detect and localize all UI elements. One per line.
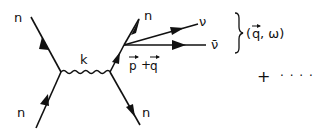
brace	[235, 13, 243, 53]
label-outgoing-right: n	[144, 8, 152, 23]
arrow-icon	[39, 37, 49, 50]
pair-momentum-label: ( q , ω)	[246, 24, 284, 41]
label-propagator: k	[80, 52, 88, 67]
arrow-icon	[126, 104, 135, 117]
arrow-icon	[170, 27, 184, 35]
propagator-wavy-line	[61, 71, 111, 74]
label-incoming-left: n	[17, 105, 25, 120]
svg-text:(: (	[246, 26, 251, 41]
feynman-diagram: n n n n k p + q ν ν̄ ( q , ω) + · · · ·	[0, 0, 323, 133]
label-antineutrino: ν̄	[211, 37, 218, 52]
label-incoming-right: n	[142, 105, 150, 120]
continuation-dots: · · · ·	[280, 69, 314, 83]
continuation-plus: +	[257, 67, 270, 86]
svg-text:p: p	[129, 59, 137, 73]
arrow-icon	[40, 94, 49, 106]
label-neutrino: ν	[199, 14, 206, 29]
right-incoming-neutron-line	[110, 72, 140, 125]
left-outgoing-neutron-line	[31, 17, 61, 72]
label-outgoing-left: n	[14, 10, 22, 25]
arrow-icon	[112, 52, 120, 64]
intermediate-line	[110, 45, 124, 72]
arrow-icon	[172, 40, 186, 50]
svg-text:q: q	[150, 59, 158, 73]
left-incoming-neutron-line	[36, 72, 61, 128]
svg-text:, ω): , ω)	[260, 26, 284, 41]
momentum-label: p + q	[129, 55, 160, 73]
